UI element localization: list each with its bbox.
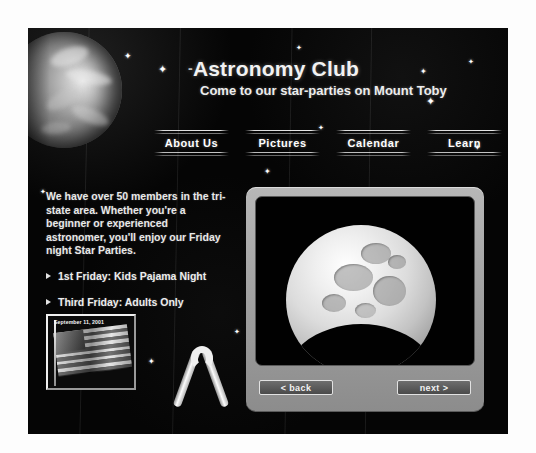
nav-item-pictures[interactable]: Pictures (243, 128, 322, 158)
flag-cloth (53, 324, 132, 377)
flag-pole (54, 320, 56, 386)
list-item[interactable]: 1st Friday: Kids Pajama Night (46, 270, 242, 282)
list-item-label: 1st Friday: Kids Pajama Night (58, 270, 206, 282)
nav-item-about-us[interactable]: About Us (152, 128, 231, 158)
main-navigation: About Us Pictures Calendar Learn (152, 128, 504, 158)
webpage-canvas: ✦ ✦ ✦ ✦ ✦ ✦ ✦ ✦ ✦ ✦ ✦ ✦ ✦ ✦ -Astronomy C… (28, 28, 508, 434)
flag-caption: September 11, 2001 (54, 319, 104, 325)
list-item[interactable]: Third Friday: Adults Only (46, 296, 242, 308)
scanned-sheet: ✦ ✦ ✦ ✦ ✦ ✦ ✦ ✦ ✦ ✦ ✦ ✦ ✦ ✦ -Astronomy C… (0, 0, 536, 453)
back-button[interactable]: < back (259, 380, 333, 395)
nav-label: Calendar (348, 137, 400, 149)
nav-label: Pictures (258, 137, 306, 149)
american-flag-image: September 11, 2001 (46, 314, 136, 390)
site-title: -Astronomy Club (188, 57, 359, 81)
arrow-bullet-icon (46, 273, 51, 279)
nav-label: About Us (165, 137, 219, 149)
event-list: 1st Friday: Kids Pajama Night Third Frid… (46, 270, 242, 308)
moon-photo (286, 225, 436, 366)
page-header: -Astronomy Club Come to our star-parties… (28, 28, 508, 158)
viewer-screen (255, 196, 475, 366)
nav-item-learn[interactable]: Learn (425, 128, 504, 158)
site-title-text: Astronomy Club (193, 57, 359, 80)
list-item-label: Third Friday: Adults Only (58, 296, 184, 308)
next-button[interactable]: next > (397, 380, 471, 395)
intro-paragraph: We have over 50 members in the tri-state… (46, 190, 226, 258)
memorial-ribbon-icon (180, 346, 224, 412)
nav-label: Learn (448, 137, 481, 149)
content-left-column: We have over 50 members in the tri-state… (46, 190, 242, 322)
arrow-bullet-icon (46, 299, 51, 305)
site-tagline: Come to our star-parties on Mount Toby (200, 83, 447, 98)
nav-item-calendar[interactable]: Calendar (334, 128, 413, 158)
earth-globe-image (28, 32, 122, 148)
viewer-controls: < back next > (255, 371, 475, 405)
image-viewer-panel: < back next > (246, 187, 484, 412)
